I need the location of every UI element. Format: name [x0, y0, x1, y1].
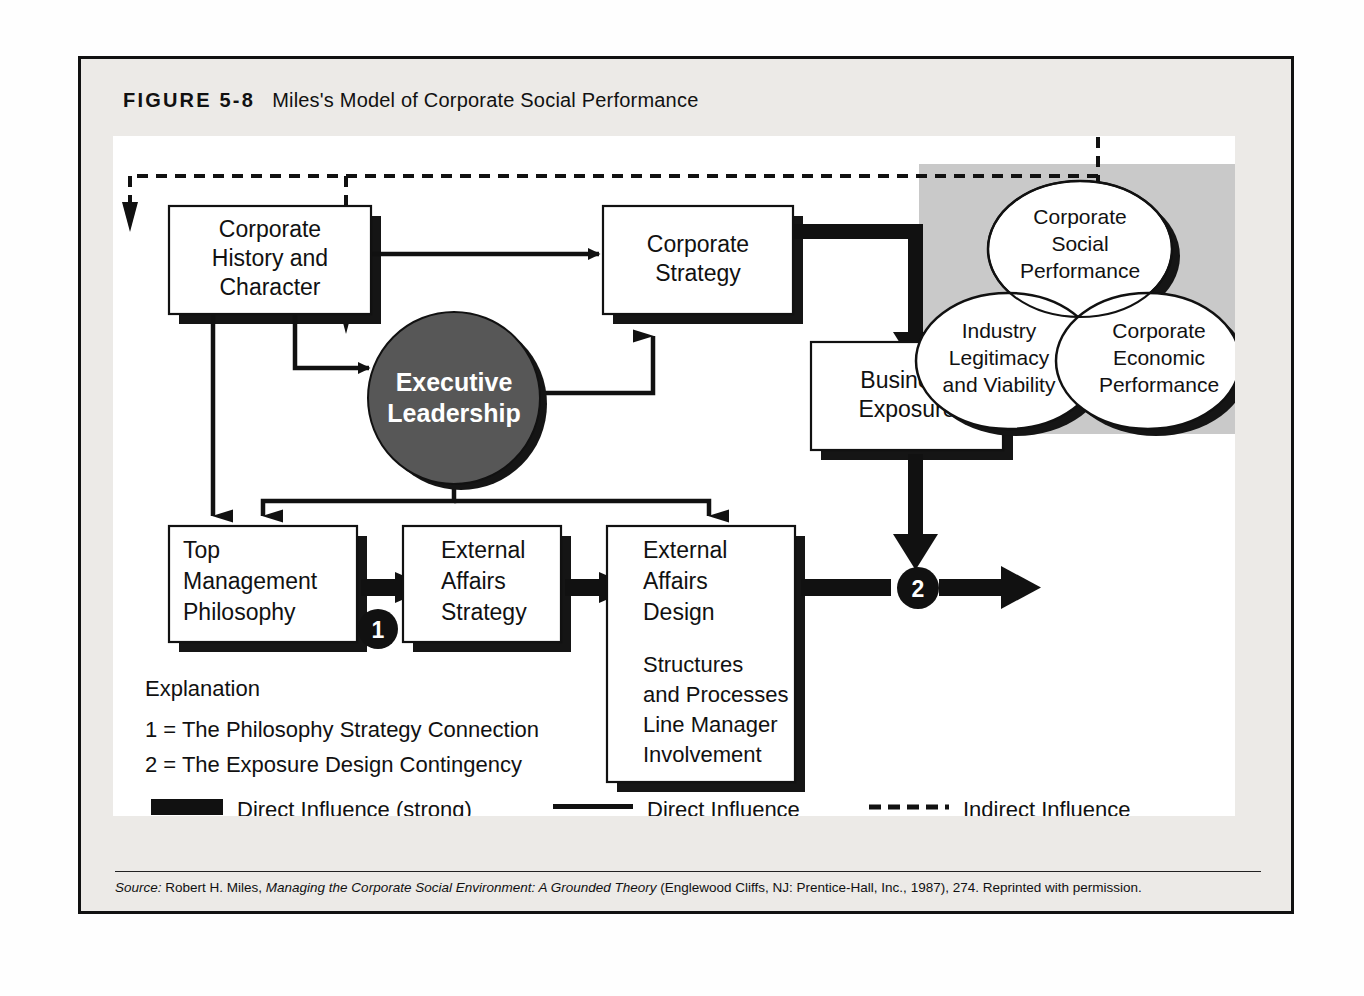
node-label-line: Strategy — [441, 599, 527, 625]
legend-label: Direct Influence (strong) — [237, 797, 472, 816]
node-label-line: Executive — [396, 368, 513, 396]
marker-one: 1 — [358, 609, 398, 649]
box-corporate-strategy: Corporate Strategy — [603, 206, 793, 314]
source-prefix: Source: — [115, 880, 162, 895]
node-executive-leadership: Executive Leadership — [368, 312, 547, 490]
node-detail-line: Involvement — [643, 742, 762, 767]
node-label-line: Corporate — [1033, 205, 1126, 228]
node-label-line: Industry — [962, 319, 1037, 342]
source-work-title: Managing the Corporate Social Environmen… — [266, 880, 657, 895]
source-suffix: (Englewood Cliffs, NJ: Prentice-Hall, In… — [657, 880, 1142, 895]
marker-two-label: 2 — [912, 576, 925, 602]
node-label-line: External — [643, 537, 727, 563]
figure-page: FIGURE 5-8 Miles's Model of Corporate So… — [0, 0, 1364, 996]
box-corporate-history: Corporate History and Character — [169, 206, 371, 314]
node-label-line: Corporate — [647, 231, 749, 257]
explanation-item: 1 = The Philosophy Strategy Connection — [145, 717, 539, 742]
explanation-heading: Explanation — [145, 676, 260, 701]
diagram-canvas: Corporate History and Character Corporat… — [113, 136, 1235, 816]
legend: Direct Influence (strong) Direct Influen… — [151, 797, 1131, 816]
legend-label: Indirect Influence — [963, 797, 1131, 816]
node-label-line: Corporate — [219, 216, 321, 242]
source-author: Robert H. Miles, — [162, 880, 266, 895]
legend-label: Direct Influence — [647, 797, 800, 816]
box-top-management-philosophy: Top Management Philosophy — [169, 526, 357, 642]
figure-title: FIGURE 5-8 Miles's Model of Corporate So… — [123, 89, 698, 112]
legend-swatch-thin-line — [553, 804, 633, 809]
node-label-line: Affairs — [643, 568, 708, 594]
node-label-line: Design — [643, 599, 715, 625]
marker-one-label: 1 — [372, 617, 385, 643]
figure-number: FIGURE 5-8 — [123, 89, 255, 111]
node-label-line: Performance — [1020, 259, 1140, 282]
node-label-line: Top — [183, 537, 220, 563]
node-label-line: Economic — [1113, 346, 1205, 369]
node-label-line: Affairs — [441, 568, 506, 594]
node-label-line: Social — [1051, 232, 1108, 255]
marker-to-csp-arrow — [939, 566, 1041, 609]
executive-bus-line-right — [454, 501, 709, 516]
source-note: Source: Robert H. Miles, Managing the Co… — [115, 879, 1275, 897]
node-detail-line: Line Manager — [643, 712, 778, 737]
exposure-to-design-arrow — [893, 454, 938, 570]
node-label-line: Performance — [1099, 373, 1219, 396]
node-label-line: Leadership — [387, 399, 520, 427]
node-label-line: Management — [183, 568, 318, 594]
explanation-block: Explanation 1 = The Philosophy Strategy … — [145, 676, 539, 777]
box-external-affairs-strategy: External Affairs Strategy — [403, 526, 561, 642]
node-label-line: Character — [220, 274, 321, 300]
marker-two: 2 — [897, 567, 939, 609]
indirect-arrowhead-history — [122, 202, 138, 232]
executive-to-strategy-line — [533, 336, 653, 393]
node-label-line: External — [441, 537, 525, 563]
legend-swatch-thick-bar — [151, 799, 223, 815]
node-label-line: and Viability — [943, 373, 1056, 396]
box-external-affairs-design: External Affairs Design Structures and P… — [607, 526, 795, 782]
node-label-line: History and — [212, 245, 328, 271]
node-label-line: Legitimacy — [949, 346, 1050, 369]
page-title: Miles's Model of Corporate Social Perfor… — [272, 89, 698, 111]
node-label-line: Strategy — [655, 260, 741, 286]
explanation-item: 2 = The Exposure Design Contingency — [145, 752, 522, 777]
figure-frame: FIGURE 5-8 Miles's Model of Corporate So… — [78, 56, 1294, 914]
node-detail-line: Structures — [643, 652, 743, 677]
design-to-csp-arrow — [801, 579, 891, 596]
node-detail-line: and Processes — [643, 682, 789, 707]
node-label-line: Philosophy — [183, 599, 296, 625]
source-divider — [115, 871, 1261, 872]
node-label-line: Corporate — [1112, 319, 1205, 342]
diagram-svg: Corporate History and Character Corporat… — [113, 136, 1235, 816]
